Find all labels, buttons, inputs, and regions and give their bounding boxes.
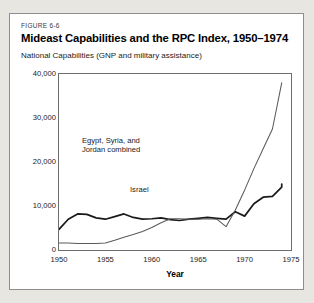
x-axis-title: Year — [58, 269, 292, 279]
chart-lines — [59, 74, 291, 250]
figure-title: Mideast Capabilities and the RPC Index, … — [21, 32, 288, 44]
y-axis-tick: 0 — [12, 245, 56, 254]
annotation-arab: Egypt, Syria, and Jordan combined — [82, 136, 140, 155]
series-line-arab — [59, 184, 282, 229]
x-axis-tick: 1970 — [225, 255, 265, 264]
y-axis: 010,00020,00030,00040,000 — [10, 73, 56, 253]
x-axis-tick: 1955 — [85, 255, 125, 264]
plot-area — [58, 73, 292, 251]
x-axis-tick: 1975 — [271, 255, 311, 264]
y-axis-tick: 10,000 — [12, 201, 56, 210]
annotation-israel: Israel — [130, 185, 149, 194]
x-axis-tick: 1960 — [132, 255, 172, 264]
x-axis: 195019551960196519701975 — [58, 255, 294, 269]
figure-label: FIGURE 6-6 — [21, 22, 60, 29]
x-axis-tick: 1950 — [39, 255, 79, 264]
figure-subtitle: National Capabilities (GNP and military … — [21, 51, 202, 60]
x-axis-tick: 1965 — [178, 255, 218, 264]
figure-card: FIGURE 6-6 Mideast Capabilities and the … — [9, 13, 304, 290]
y-axis-tick: 30,000 — [12, 113, 56, 122]
y-axis-tick: 40,000 — [12, 69, 56, 78]
series-line-israel — [59, 83, 282, 244]
y-axis-tick: 20,000 — [12, 157, 56, 166]
